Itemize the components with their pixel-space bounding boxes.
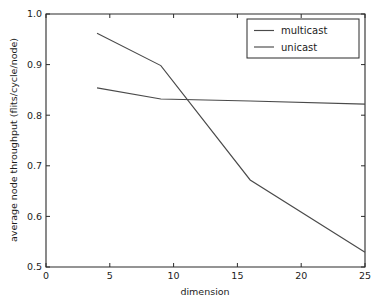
- legend: multicast unicast: [247, 19, 359, 58]
- series-multicast: [97, 33, 365, 252]
- y-tick-label: 0.6: [27, 211, 42, 222]
- x-tick-label: 10: [168, 270, 180, 281]
- y-tick-labels: 0.5 0.6 0.7 0.8 0.9 1.0: [27, 8, 42, 272]
- x-tick-label: 5: [107, 270, 113, 281]
- y-tick-label: 1.0: [27, 8, 42, 19]
- unicast-line: [97, 88, 365, 104]
- line-chart-canvas: 0.5 0.6 0.7 0.8 0.9 1.0 0 5 10 15 20 25 …: [0, 0, 382, 305]
- x-tick-label: 15: [231, 270, 243, 281]
- multicast-line: [97, 33, 365, 252]
- x-tick-label: 0: [43, 270, 49, 281]
- y-axis-title: average node throughput (flits/cycle/nod…: [8, 38, 19, 242]
- y-tick-label: 0.5: [27, 261, 42, 272]
- legend-label-multicast: multicast: [281, 25, 327, 36]
- y-tick-label: 0.7: [27, 160, 42, 171]
- chart-figure: 0.5 0.6 0.7 0.8 0.9 1.0 0 5 10 15 20 25 …: [0, 0, 382, 305]
- y-tick-label: 0.8: [27, 110, 42, 121]
- x-axis-title: dimension: [180, 286, 229, 297]
- x-tick-label: 20: [295, 270, 307, 281]
- x-tick-labels: 0 5 10 15 20 25: [43, 270, 371, 281]
- x-tick-label: 25: [359, 270, 371, 281]
- legend-label-unicast: unicast: [281, 42, 317, 53]
- y-tick-label: 0.9: [27, 59, 42, 70]
- series-unicast: [97, 88, 365, 104]
